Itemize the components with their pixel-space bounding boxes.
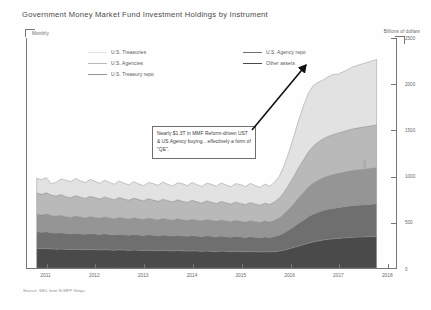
x-axis-tick [193, 264, 194, 268]
annotation-arrow-icon [250, 58, 314, 132]
x-axis-tick-label: 2017 [333, 273, 344, 278]
annotation-text: Nearly $1.3T in MMF Reform-driven UST & … [157, 131, 251, 152]
x-axis-tick [95, 264, 96, 268]
unit-label: Billions of dollars [384, 29, 420, 34]
x-axis-tick-label: 2014 [187, 273, 198, 278]
y-axis-tick [391, 223, 396, 224]
x-axis-tick-label: 2016 [284, 273, 295, 278]
y-axis-tick-label: 1000 [405, 174, 415, 179]
side-note: MMF Reform [362, 160, 366, 183]
page-title: Government Money Market Fund Investment … [22, 10, 268, 19]
y-axis-tick-label: 0 [405, 267, 408, 272]
x-axis-tick-label: 2013 [138, 273, 149, 278]
y-axis-tick-label: 1500 [405, 128, 415, 133]
x-axis-tick-label: 2012 [89, 273, 100, 278]
x-axis-tick [388, 264, 389, 268]
y-axis-tick-label: 2500 [405, 36, 415, 41]
y-axis-tick [391, 177, 396, 178]
x-axis-tick [339, 264, 340, 268]
x-axis-tick [291, 264, 292, 268]
y-axis-tick [391, 38, 396, 39]
page-top-margin [0, 0, 431, 4]
x-axis-tick [47, 264, 48, 268]
y-axis-tick-label: 2000 [405, 82, 415, 87]
y-axis-tick [391, 84, 396, 85]
y-axis-tick-label: 500 [405, 220, 413, 225]
x-axis-tick [242, 264, 243, 268]
source-note: Source: SEC form N-MFP filings. [23, 288, 86, 293]
x-axis-tick [144, 264, 145, 268]
x-axis-tick-label: 2018 [382, 273, 393, 278]
x-axis-tick-label: 2015 [235, 273, 246, 278]
x-axis-tick-label: 2011 [40, 273, 50, 278]
frequency-label: Monthly [32, 31, 49, 36]
annotation-callout: Nearly $1.3T in MMF Reform-driven UST & … [152, 126, 256, 159]
y-axis-tick [391, 130, 396, 131]
chart-page: Government Money Market Fund Investment … [0, 0, 431, 310]
